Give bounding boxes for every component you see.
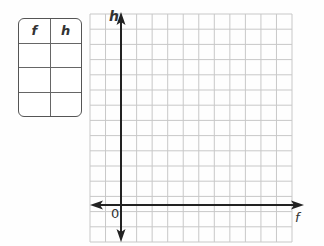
x-axis-label: f (295, 210, 302, 225)
coordinate-grid: h f 0 (0, 0, 324, 246)
y-axis-label: h (109, 8, 119, 24)
origin-label: 0 (111, 206, 119, 221)
